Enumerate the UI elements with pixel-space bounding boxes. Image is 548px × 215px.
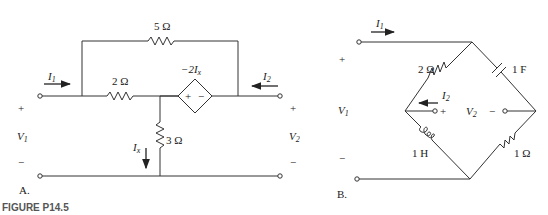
v1-plus: + bbox=[18, 102, 24, 114]
terminal-a-1-bottom bbox=[38, 174, 42, 178]
svg-text:V2: V2 bbox=[466, 105, 477, 119]
resistor-5ohm-label: 5 Ω bbox=[154, 20, 170, 32]
dependent-voltage-source bbox=[178, 79, 212, 113]
resistor-3ohm-label: 3 Ω bbox=[166, 134, 182, 146]
svg-text:I1: I1 bbox=[47, 70, 56, 84]
svg-text:V2: V2 bbox=[289, 130, 300, 144]
dep-minus: − bbox=[198, 90, 204, 102]
v2-plus: + bbox=[290, 102, 296, 114]
resistor-2ohm-label: 2 Ω bbox=[112, 75, 128, 87]
v1-b-plus: + bbox=[339, 53, 345, 65]
figure-caption: FIGURE P14.5 bbox=[2, 202, 69, 213]
dep-source-label: −2I bbox=[181, 63, 199, 75]
svg-text:I1: I1 bbox=[375, 17, 384, 31]
terminal-a-2-top bbox=[278, 94, 282, 98]
v2-minus: − bbox=[290, 156, 296, 168]
terminal-b-2-plus bbox=[433, 109, 437, 113]
svg-text:I2: I2 bbox=[441, 89, 450, 103]
v1-minus: − bbox=[18, 156, 24, 168]
svg-text:I2: I2 bbox=[262, 70, 271, 84]
circuit-diagrams: 5 Ω 2 Ω 3 Ω −2Ix + − I1 I2 Ix + V1 − + V… bbox=[0, 0, 548, 215]
svg-text:−2Ix: −2Ix bbox=[181, 63, 202, 77]
terminal-b-1-top bbox=[357, 40, 361, 44]
inductor-1h-label: 1 H bbox=[412, 147, 428, 159]
circuit-a: 5 Ω 2 Ω 3 Ω −2Ix + − I1 I2 Ix + V1 − + V… bbox=[17, 20, 300, 196]
resistor-1ohm-label: 1 Ω bbox=[514, 147, 530, 159]
dep-plus: + bbox=[185, 90, 191, 102]
terminal-b-1-bottom bbox=[355, 177, 359, 181]
v2-b-minus: − bbox=[489, 105, 495, 117]
svg-text:Ix: Ix bbox=[132, 141, 141, 155]
capacitor-1f-label: 1 F bbox=[512, 63, 526, 75]
v2-b-plus: + bbox=[440, 105, 446, 117]
circuit-a-label: A. bbox=[19, 184, 30, 196]
resistor-2ohm-b-label: 2 Ω bbox=[418, 63, 434, 75]
svg-text:V1: V1 bbox=[338, 104, 349, 118]
terminal-a-2-bottom bbox=[278, 174, 282, 178]
terminal-b-2-minus bbox=[503, 109, 507, 113]
circuit-b-label: B. bbox=[337, 188, 347, 200]
svg-text:V1: V1 bbox=[17, 130, 28, 144]
terminal-a-1-top bbox=[38, 94, 42, 98]
v1-b-minus: − bbox=[339, 152, 345, 164]
circuit-b: 2 Ω 1 F 1 H 1 Ω I1 I2 + V2 − + V1 − B. bbox=[337, 17, 536, 200]
